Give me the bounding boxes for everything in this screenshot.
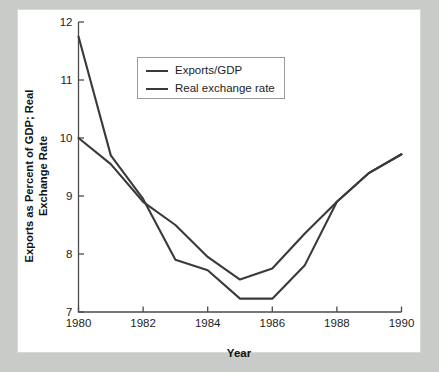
legend-item-real-exchange-rate: Real exchange rate [138, 80, 284, 98]
legend-line-swatch-real-exchange-rate [146, 88, 168, 90]
chart-legend: Exports/GDP Real exchange rate [137, 57, 285, 99]
legend-line-swatch-exports-gdp [146, 70, 168, 72]
legend-label-real-exchange-rate: Real exchange rate [175, 83, 275, 95]
figure-root: 789101112 198019821984198619881990 Year … [0, 0, 439, 372]
y-axis-title-wrap: Exports as Percent of GDP; Real Exchange… [22, 56, 52, 296]
y-axis-title: Exports as Percent of GDP; Real Exchange… [23, 90, 50, 263]
y-axis-title-line-2: Exchange Rate [37, 136, 49, 216]
legend-label-exports-gdp: Exports/GDP [175, 65, 242, 77]
legend-item-exports-gdp: Exports/GDP [138, 62, 284, 80]
y-axis-title-line-1: Exports as Percent of GDP; Real [23, 90, 35, 263]
